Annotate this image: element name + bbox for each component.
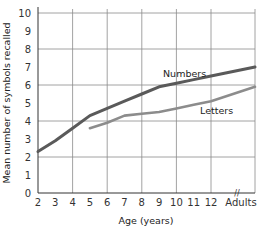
y-tick-label: 5 [25, 98, 31, 109]
y-axis-ticks: 012345678910 [18, 8, 31, 199]
y-tick-label: 3 [25, 134, 31, 145]
y-tick-label: 7 [25, 62, 31, 73]
y-tick-label: 2 [25, 152, 31, 163]
x-tick-label: 5 [87, 197, 93, 208]
x-tick-label: Adults [225, 197, 256, 208]
y-tick-label: 9 [25, 26, 31, 37]
y-tick-label: 0 [25, 188, 31, 199]
series: NumbersLetters [38, 67, 255, 152]
series-label-letters: Letters [200, 105, 233, 116]
x-tick-label: 9 [156, 197, 162, 208]
x-tick-label: 2 [35, 197, 41, 208]
x-axis-label: Age (years) [119, 215, 174, 226]
y-tick-label: 4 [25, 116, 31, 127]
x-tick-label: 3 [52, 197, 58, 208]
y-tick-label: 10 [18, 8, 31, 19]
x-tick-label: 4 [69, 197, 75, 208]
x-tick-label: 12 [205, 197, 218, 208]
y-axis-label: Mean number of symbols recalled [1, 22, 12, 183]
x-tick-label: 7 [121, 197, 127, 208]
x-tick-label: 11 [187, 197, 200, 208]
line-chart: // 012345678910 23456789101112Adults Num… [0, 0, 261, 228]
axes: // [38, 7, 255, 198]
y-tick-label: 1 [25, 170, 31, 181]
series-label-numbers: Numbers [163, 68, 206, 79]
y-tick-label: 6 [25, 80, 31, 91]
grid [38, 9, 255, 193]
y-tick-label: 8 [25, 44, 31, 55]
x-tick-label: 6 [104, 197, 110, 208]
x-axis-ticks: 23456789101112Adults [35, 197, 257, 208]
x-tick-label: 8 [139, 197, 145, 208]
x-tick-label: 10 [170, 197, 183, 208]
